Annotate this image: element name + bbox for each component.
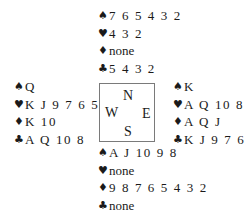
spade-icon: ♠ — [98, 147, 109, 158]
north-spades: 7 6 5 4 3 2 — [109, 7, 182, 25]
south-diamonds-row: ♦ 9 8 7 6 5 4 3 2 — [98, 179, 208, 197]
south-hand: ♠ A J 10 9 8 ♥ none ♦ 9 8 7 6 5 4 3 2 ♣ … — [98, 144, 208, 214]
east-diamonds: A Q J — [184, 113, 222, 131]
west-hearts-row: ♥ K J 9 7 6 5 — [14, 96, 99, 114]
south-spades: A J 10 9 8 — [109, 144, 178, 162]
heart-icon: ♥ — [173, 99, 184, 110]
south-hearts: none — [109, 162, 134, 180]
spade-icon: ♠ — [173, 81, 184, 92]
east-diamonds-row: ♦ A Q J — [173, 113, 245, 131]
compass-north-label: N — [123, 89, 133, 103]
west-hearts: K J 9 7 6 5 — [25, 96, 99, 114]
south-hearts-row: ♥ none — [98, 162, 208, 180]
spade-icon: ♠ — [14, 81, 25, 92]
east-spades-row: ♠ K — [173, 78, 245, 96]
diamond-icon: ♦ — [98, 45, 109, 56]
compass-box: N W E S — [99, 83, 155, 142]
north-hearts-row: ♥ 4 3 2 — [98, 25, 182, 43]
north-hand: ♠ 7 6 5 4 3 2 ♥ 4 3 2 ♦ none ♣ 5 4 3 2 — [98, 7, 182, 77]
club-icon: ♣ — [98, 200, 109, 211]
south-spades-row: ♠ A J 10 9 8 — [98, 144, 208, 162]
south-clubs-row: ♣ none — [98, 197, 208, 215]
north-hearts: 4 3 2 — [109, 25, 143, 43]
heart-icon: ♥ — [98, 28, 109, 39]
north-clubs: 5 4 3 2 — [109, 60, 156, 78]
west-hand: ♠ Q ♥ K J 9 7 6 5 ♦ K 10 ♣ A Q 10 8 — [14, 78, 99, 148]
west-spades: Q — [25, 78, 36, 96]
diamond-icon: ♦ — [98, 182, 109, 193]
east-hand: ♠ K ♥ A Q 10 8 ♦ A Q J ♣ K J 9 7 6 — [173, 78, 245, 148]
west-diamonds: K 10 — [25, 113, 57, 131]
west-clubs-row: ♣ A Q 10 8 — [14, 131, 99, 149]
club-icon: ♣ — [14, 134, 25, 145]
north-diamonds: none — [109, 42, 134, 60]
west-diamonds-row: ♦ K 10 — [14, 113, 99, 131]
east-spades: K — [184, 78, 195, 96]
diamond-icon: ♦ — [173, 116, 184, 127]
west-spades-row: ♠ Q — [14, 78, 99, 96]
south-clubs: none — [109, 197, 134, 215]
heart-icon: ♥ — [98, 165, 109, 176]
diamond-icon: ♦ — [14, 116, 25, 127]
north-diamonds-row: ♦ none — [98, 42, 182, 60]
east-hearts-row: ♥ A Q 10 8 — [173, 96, 245, 114]
spade-icon: ♠ — [98, 10, 109, 21]
heart-icon: ♥ — [14, 99, 25, 110]
south-diamonds: 9 8 7 6 5 4 3 2 — [109, 179, 208, 197]
club-icon: ♣ — [98, 63, 109, 74]
compass-west-label: W — [105, 106, 118, 120]
compass-south-label: S — [124, 125, 132, 139]
compass-east-label: E — [142, 107, 151, 121]
north-spades-row: ♠ 7 6 5 4 3 2 — [98, 7, 182, 25]
north-clubs-row: ♣ 5 4 3 2 — [98, 60, 182, 78]
east-hearts: A Q 10 8 — [184, 96, 244, 114]
west-clubs: A Q 10 8 — [25, 131, 85, 149]
